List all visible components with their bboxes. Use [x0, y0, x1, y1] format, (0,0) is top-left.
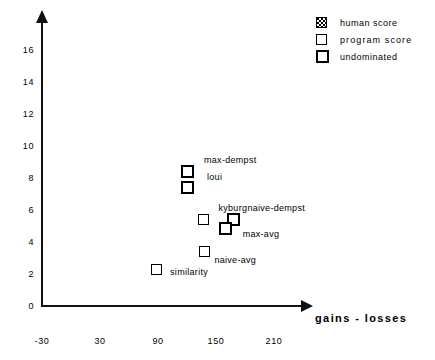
legend-label: undominated — [340, 52, 398, 62]
scatter-chart: 0246810121416 -303090150210 gains - loss… — [0, 0, 435, 360]
data-point-marker[interactable] — [181, 165, 194, 178]
x-axis-tick-text: 30 — [94, 336, 105, 346]
y-axis-tick-text: 14 — [6, 77, 34, 87]
legend-item-program[interactable]: program score — [316, 31, 434, 48]
y-axis-tick-label: 4 — [0, 237, 34, 247]
legend-hatched-square-icon — [316, 17, 327, 28]
data-point-marker[interactable] — [198, 214, 209, 225]
x-axis-tick-text: -30 — [35, 336, 50, 346]
x-axis-tick-label: 30 — [80, 330, 120, 348]
data-point-label: loui — [207, 172, 222, 182]
y-axis-tick-text: 8 — [6, 173, 34, 183]
data-point-marker[interactable] — [199, 246, 210, 257]
y-axis-arrow-icon — [36, 10, 48, 23]
x-axis-tick-label: 150 — [196, 330, 236, 348]
data-point-label: max-avg — [243, 229, 280, 239]
data-point-label: naive-avg — [214, 255, 256, 265]
x-axis-tick-label: -30 — [22, 330, 62, 348]
x-axis-tick-text: 90 — [152, 336, 163, 346]
y-axis-tick-text: 16 — [6, 45, 34, 55]
legend-item-undominated[interactable]: undominated — [316, 48, 434, 65]
data-point-label: similarity — [170, 267, 208, 277]
y-axis-tick-text: 12 — [6, 109, 34, 119]
x-axis-line — [41, 305, 306, 307]
legend-swatch-cell — [316, 17, 340, 28]
y-axis-tick-text: 6 — [6, 205, 34, 215]
y-axis-tick-text: 10 — [6, 141, 34, 151]
y-axis-tick-label: 14 — [0, 77, 34, 87]
legend-thick-square-icon — [316, 50, 329, 63]
y-axis-tick-label: 8 — [0, 173, 34, 183]
x-axis-title: gains - losses — [315, 312, 407, 324]
y-axis-line — [41, 20, 43, 307]
y-axis-tick-text: 4 — [6, 237, 34, 247]
legend-thin-square-icon — [316, 34, 327, 45]
y-axis-tick-label: 6 — [0, 205, 34, 215]
legend-label: human score — [340, 18, 398, 28]
data-point-marker[interactable] — [151, 264, 162, 275]
y-axis-tick-label: 12 — [0, 109, 34, 119]
x-axis-arrow-icon — [301, 300, 313, 312]
legend-label: program score — [340, 35, 412, 45]
data-point-marker[interactable] — [181, 181, 194, 194]
y-axis-tick-label: 10 — [0, 141, 34, 151]
legend-item-human[interactable]: human score — [316, 14, 434, 31]
y-axis-tick-text: 2 — [6, 269, 34, 279]
chart-legend: human scoreprogram scoreundominated — [316, 14, 434, 65]
legend-swatch-cell — [316, 50, 340, 63]
legend-swatch-cell — [316, 34, 340, 45]
y-axis-tick-text: 0 — [6, 301, 34, 311]
data-point-label: max-dempst — [204, 155, 257, 165]
data-point-marker[interactable] — [219, 222, 232, 235]
x-axis-tick-label: 90 — [138, 330, 178, 348]
y-axis-tick-label: 16 — [0, 45, 34, 55]
x-axis-tick-text: 210 — [266, 336, 283, 346]
data-point-label: naive-dempst — [247, 203, 305, 213]
x-axis-tick-text: 150 — [208, 336, 225, 346]
y-axis-tick-label: 2 — [0, 269, 34, 279]
x-axis-tick-label: 210 — [254, 330, 294, 348]
y-axis-tick-label: 0 — [0, 301, 34, 311]
data-point-label: kyburg — [218, 203, 247, 213]
